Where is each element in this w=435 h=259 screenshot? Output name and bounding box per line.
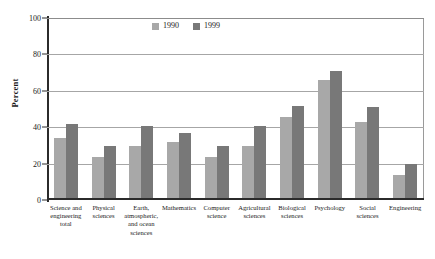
- bar-1999-3[interactable]: [179, 133, 191, 199]
- chart-legend: 19901999: [152, 22, 220, 30]
- bar-chart-figure: Percent 020406080100 19901999 Science an…: [0, 0, 435, 259]
- x-axis-labels: Science andengineeringtotalPhysicalscien…: [47, 204, 424, 237]
- x-axis-label-4: Computerscience: [198, 204, 236, 220]
- bar-1990-4[interactable]: [205, 157, 217, 199]
- x-axis-label-line: engineering: [48, 212, 84, 220]
- x-axis-label-line: atmospheric,: [123, 212, 159, 220]
- bar-group: [198, 16, 236, 198]
- y-tick-label-20: 20: [33, 159, 41, 168]
- bar-group: [122, 16, 160, 198]
- y-axis-title: Percent: [10, 53, 20, 133]
- x-axis-label-line: Science and: [48, 204, 84, 212]
- x-axis-label-0: Science andengineeringtotal: [47, 204, 85, 229]
- x-axis-label-3: Mathematics: [160, 204, 198, 212]
- bar-1999-5[interactable]: [254, 126, 266, 199]
- x-axis-label-line: Agricultural: [237, 204, 273, 212]
- bar-1990-7[interactable]: [318, 80, 330, 198]
- x-axis-label-line: Social: [350, 204, 386, 212]
- x-axis-label-7: Psychology: [311, 204, 349, 212]
- legend-swatch-icon-1999: [193, 23, 200, 30]
- y-tick-label-100: 100: [29, 14, 41, 23]
- x-axis-label-line: Psychology: [312, 204, 348, 212]
- x-axis-label-line: Biological: [274, 204, 310, 212]
- x-axis-label-line: sciences: [237, 212, 273, 220]
- x-axis-label-2: Earth,atmospheric,and oceansciences: [122, 204, 160, 237]
- bar-1990-2[interactable]: [129, 146, 141, 199]
- bar-1990-9[interactable]: [393, 175, 405, 199]
- bar-group: [160, 16, 198, 198]
- x-axis-label-5: Agriculturalsciences: [236, 204, 274, 220]
- x-axis-label-9: Engineering: [386, 204, 424, 212]
- bar-1990-0[interactable]: [54, 138, 66, 198]
- bar-1990-3[interactable]: [167, 142, 179, 198]
- legend-entry-1999[interactable]: 1999: [193, 22, 220, 30]
- x-axis-label-line: sciences: [350, 212, 386, 220]
- x-axis-label-1: Physicalsciences: [85, 204, 123, 220]
- y-tick-label-0: 0: [37, 196, 41, 205]
- x-axis-label-8: Socialsciences: [349, 204, 387, 220]
- y-tick-label-60: 60: [33, 86, 41, 95]
- legend-entry-1990[interactable]: 1990: [152, 22, 179, 30]
- legend-swatch-icon-1990: [152, 23, 159, 30]
- bar-group: [386, 16, 424, 198]
- x-axis-label-line: sciences: [274, 212, 310, 220]
- bar-1999-7[interactable]: [330, 71, 342, 198]
- legend-label-1999: 1999: [204, 22, 220, 30]
- bar-group: [236, 16, 274, 198]
- x-axis-label-line: and ocean: [123, 220, 159, 228]
- bar-1990-1[interactable]: [92, 157, 104, 199]
- bar-1999-0[interactable]: [66, 124, 78, 199]
- bar-group: [273, 16, 311, 198]
- y-tick-label-40: 40: [33, 123, 41, 132]
- bar-group: [47, 16, 85, 198]
- bar-1990-8[interactable]: [355, 122, 367, 198]
- bar-1999-4[interactable]: [217, 146, 229, 199]
- bar-1990-6[interactable]: [280, 117, 292, 199]
- bar-1999-9[interactable]: [405, 164, 417, 199]
- x-axis-label-line: total: [48, 220, 84, 228]
- x-axis-label-line: Computer: [199, 204, 235, 212]
- bar-1999-6[interactable]: [292, 106, 304, 199]
- bar-1999-1[interactable]: [104, 146, 116, 199]
- x-axis-label-6: Biologicalsciences: [273, 204, 311, 220]
- x-axis-label-line: Earth,: [123, 204, 159, 212]
- bar-group: [311, 16, 349, 198]
- plot-area: 020406080100: [47, 18, 424, 200]
- bar-1999-8[interactable]: [367, 107, 379, 198]
- bar-group: [349, 16, 387, 198]
- legend-label-1990: 1990: [163, 22, 179, 30]
- x-axis-label-line: Mathematics: [161, 204, 197, 212]
- x-axis-label-line: sciences: [86, 212, 122, 220]
- x-axis-label-line: Physical: [86, 204, 122, 212]
- y-tick-label-80: 80: [33, 50, 41, 59]
- bar-group: [85, 16, 123, 198]
- bar-1990-5[interactable]: [242, 146, 254, 199]
- bar-1999-2[interactable]: [141, 126, 153, 199]
- x-axis-label-line: Engineering: [387, 204, 423, 212]
- bars-layer: [47, 16, 424, 198]
- x-axis-label-line: science: [199, 212, 235, 220]
- x-axis-label-line: sciences: [123, 229, 159, 237]
- x-axis-line: [47, 198, 424, 200]
